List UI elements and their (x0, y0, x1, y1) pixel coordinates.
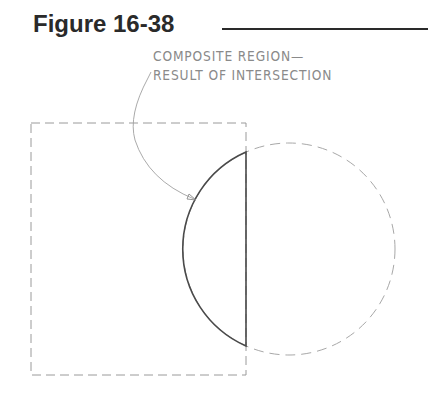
leader-line (133, 72, 194, 199)
dashed-circle (183, 143, 395, 355)
dashed-rectangle (31, 123, 246, 375)
composite-region (183, 152, 246, 346)
intersection-diagram (0, 0, 447, 403)
